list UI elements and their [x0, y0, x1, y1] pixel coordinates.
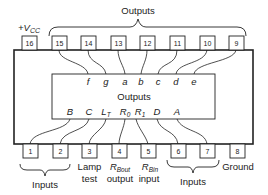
- pin-14: 14: [81, 36, 96, 50]
- svg-text:12: 12: [144, 40, 152, 47]
- signal-b: b: [138, 76, 143, 87]
- pin-4: 4: [112, 144, 127, 158]
- inputs-right-label: Inputs: [180, 176, 206, 187]
- svg-text:2: 2: [59, 148, 63, 155]
- top-outputs-brace: [49, 19, 246, 36]
- svg-text:14: 14: [85, 40, 93, 47]
- signal-C: C: [86, 106, 93, 117]
- signal-B: B: [67, 106, 74, 117]
- svg-text:10: 10: [204, 40, 212, 47]
- pin-2: 2: [53, 144, 68, 158]
- signal-a: a: [122, 76, 127, 87]
- signal-e: e: [191, 76, 196, 87]
- inner-outputs-label: Outputs: [117, 91, 151, 102]
- pin-5: 5: [141, 144, 156, 158]
- pin-3: 3: [82, 144, 97, 158]
- svg-text:13: 13: [115, 40, 123, 47]
- signal-D: D: [154, 106, 161, 117]
- ic-pinout-diagram: Outputs +VCC 16 15 14 13 12 11 10 9 f g …: [0, 0, 268, 195]
- signal-A: A: [173, 106, 180, 117]
- pin-10: 10: [200, 36, 215, 50]
- signal-c: c: [156, 76, 161, 87]
- pin-12: 12: [140, 36, 155, 50]
- lamp-test-label-line1: Lamp: [78, 161, 102, 172]
- pin-11: 11: [170, 36, 185, 50]
- pin-8: 8: [230, 144, 245, 158]
- svg-text:3: 3: [88, 148, 92, 155]
- svg-text:15: 15: [56, 40, 64, 47]
- inputs-left-brace: [20, 164, 70, 176]
- bottom-pins: 1 2 3 4 5 6 7 8: [23, 144, 245, 158]
- inputs-left-label: Inputs: [32, 179, 58, 190]
- signal-d: d: [173, 76, 179, 87]
- svg-text:11: 11: [174, 40, 181, 47]
- vcc-label: +VCC: [18, 22, 41, 34]
- pin-9: 9: [229, 36, 244, 50]
- svg-text:7: 7: [206, 148, 210, 155]
- lamp-test-label-line2: test: [82, 173, 98, 184]
- signal-g: g: [103, 76, 109, 87]
- pin-1: 1: [23, 144, 38, 158]
- top-pins: 16 15 14 13 12 11 10 9: [22, 36, 244, 50]
- rbo-label-line1: RBout: [110, 161, 131, 173]
- svg-text:5: 5: [147, 148, 151, 155]
- svg-text:9: 9: [235, 40, 239, 47]
- pin-6: 6: [171, 144, 186, 158]
- rbi-label-line2: input: [139, 173, 160, 184]
- pin-7: 7: [200, 144, 215, 158]
- svg-text:16: 16: [26, 40, 34, 47]
- ground-label: Ground: [222, 161, 254, 172]
- top-outputs-label: Outputs: [121, 5, 155, 16]
- pin-13: 13: [111, 36, 126, 50]
- svg-text:4: 4: [118, 148, 122, 155]
- svg-text:6: 6: [177, 148, 181, 155]
- rbo-label-line2: output: [107, 173, 134, 184]
- svg-text:8: 8: [236, 148, 240, 155]
- pin-16: 16: [22, 36, 37, 50]
- svg-text:1: 1: [29, 148, 33, 155]
- pin-15: 15: [52, 36, 67, 50]
- inputs-right-brace: [167, 160, 219, 173]
- rbi-label-line1: RBin: [142, 161, 159, 173]
